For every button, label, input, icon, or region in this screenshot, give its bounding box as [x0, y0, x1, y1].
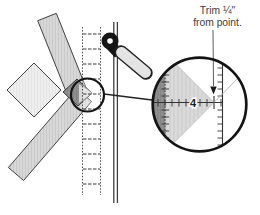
- quilt-trimming-diagram: 4 Trim ¼" from point.: [0, 0, 260, 215]
- callout-connector-line: [104, 94, 152, 100]
- trim-leader-line: [213, 30, 214, 86]
- trim-note-line1: Trim ¼": [200, 5, 236, 16]
- cutter-hub: [107, 38, 113, 44]
- diamond-patch: [7, 63, 61, 117]
- trim-note-line2: from point.: [193, 17, 242, 28]
- ruler-number: 4: [190, 97, 197, 109]
- diagram-canvas: 4 Trim ¼" from point.: [0, 0, 260, 215]
- cutter-handle-fill: [122, 53, 146, 73]
- rotary-cutter-icon: [102, 33, 147, 74]
- trim-note: Trim ¼" from point.: [193, 5, 242, 28]
- quilt-block: [7, 13, 92, 180]
